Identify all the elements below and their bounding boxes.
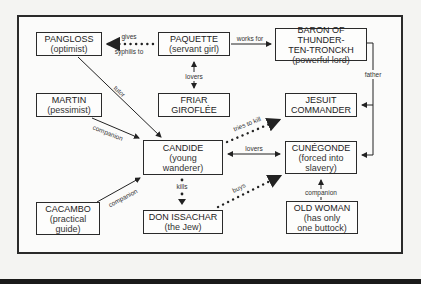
edge-buys xyxy=(218,176,280,207)
node-cacambo: CACAMBO (practical guide) xyxy=(36,202,100,235)
node-don-issachar: DON ISSACHAR (the Jew) xyxy=(143,210,223,234)
edge-kills xyxy=(178,199,186,205)
svg-text:syphilis to: syphilis to xyxy=(115,48,144,56)
node-jesuit: JESUIT COMMANDER xyxy=(285,93,357,117)
node-cunegonde: CUNÉGONDE (forced into slavery) xyxy=(285,141,357,174)
bottom-bar xyxy=(0,279,421,284)
svg-text:works for: works for xyxy=(236,35,264,42)
node-candide: CANDIDE (young wanderer) xyxy=(143,140,223,175)
svg-text:companion: companion xyxy=(305,189,337,197)
svg-text:kills: kills xyxy=(177,183,189,190)
svg-text:companion: companion xyxy=(92,123,125,142)
node-pangloss: PANGLOSS (optimist) xyxy=(36,32,102,56)
svg-text:companion: companion xyxy=(107,187,139,209)
svg-text:father: father xyxy=(365,71,382,78)
svg-text:gives: gives xyxy=(121,33,137,41)
svg-text:tutor: tutor xyxy=(113,84,128,99)
node-paquette: PAQUETTE (servant girl) xyxy=(158,32,230,56)
svg-text:lovers: lovers xyxy=(185,73,203,80)
svg-text:buys: buys xyxy=(231,181,248,195)
node-martin: MARTIN (pessimist) xyxy=(36,93,102,117)
node-old-woman: OLD WOMAN (has only one buttock) xyxy=(286,201,358,234)
svg-text:lovers: lovers xyxy=(245,145,263,152)
node-baron: BARON OF THUNDER- TEN-TRONCKH (powerful … xyxy=(275,28,367,61)
node-friar: FRIAR GIROFLÉE xyxy=(158,93,230,117)
